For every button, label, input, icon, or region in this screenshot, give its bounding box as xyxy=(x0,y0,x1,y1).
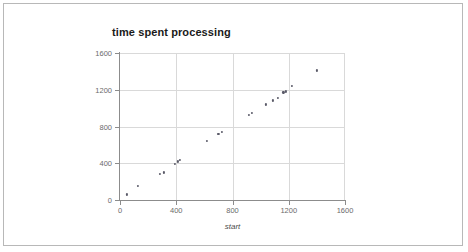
y-axis-tick-label: 800 xyxy=(72,122,112,131)
x-axis-tick xyxy=(233,201,234,205)
x-axis-title: start xyxy=(120,222,345,231)
x-axis-tick xyxy=(120,201,121,205)
y-axis-tick-label: 400 xyxy=(72,159,112,168)
x-axis-tick-label: 800 xyxy=(213,206,253,215)
gridline-vertical xyxy=(233,53,234,200)
y-axis-tick xyxy=(115,90,120,91)
scatter-chart: time spent processing 040080012001600 04… xyxy=(0,0,468,252)
x-axis-tick-label: 400 xyxy=(156,206,196,215)
gridline-vertical xyxy=(289,53,290,200)
plot-area xyxy=(120,53,345,200)
y-axis-tick-label: 1200 xyxy=(72,85,112,94)
y-axis-tick-label: 0 xyxy=(72,196,112,205)
y-axis-tick xyxy=(115,163,120,164)
x-axis-tick-label: 0 xyxy=(100,206,140,215)
x-axis-tick-label: 1200 xyxy=(269,206,309,215)
x-axis-tick xyxy=(289,201,290,205)
gridline-vertical xyxy=(176,53,177,200)
x-axis-tick xyxy=(345,201,346,205)
x-axis-tick-label: 1600 xyxy=(325,206,365,215)
y-axis-tick xyxy=(115,127,120,128)
chart-title: time spent processing xyxy=(112,26,231,38)
y-axis-tick xyxy=(115,53,120,54)
y-axis-tick-label: 1600 xyxy=(72,49,112,58)
x-axis-tick xyxy=(176,201,177,205)
